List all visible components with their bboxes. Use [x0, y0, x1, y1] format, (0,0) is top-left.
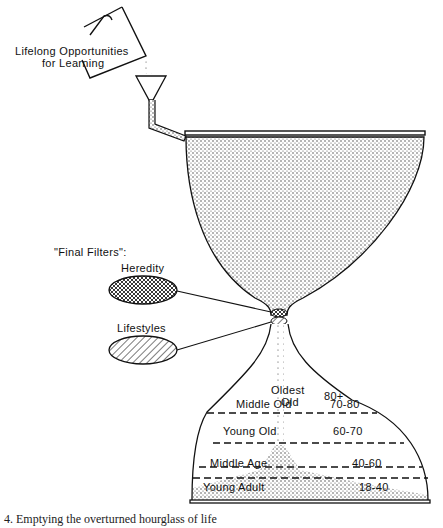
stage-young-adult: Young Adult — [203, 481, 265, 493]
lifestyles-filter-oval — [109, 336, 177, 364]
stage-young-old-ages: 60-70 — [333, 425, 363, 437]
source-label-line1: Lifelong Opportunities — [15, 45, 129, 57]
hourglass-diagram — [0, 0, 443, 528]
filters-title: "Final Filters": — [54, 246, 127, 258]
stage-young-old: Young Old — [223, 425, 277, 437]
figure-caption: 4. Emptying the overturned hourglass of … — [4, 512, 217, 527]
stage-young-adult-ages: 18-40 — [359, 481, 389, 493]
stage-middle-age-ages: 40-60 — [352, 457, 382, 469]
hourglass-top-bulb — [185, 131, 425, 315]
stage-middle-old: Middle Old — [236, 398, 292, 410]
heredity-filter-oval — [109, 276, 177, 304]
filter-label-lifestyles: Lifestyles — [117, 322, 166, 334]
stage-oldest-old-line1: Oldest — [271, 384, 305, 396]
filter-label-heredity: Heredity — [121, 262, 164, 274]
stage-middle-age: Middle Age — [210, 457, 267, 469]
source-label-line2: for Learning — [42, 57, 104, 69]
stage-middle-old-ages: 70-80 — [330, 398, 360, 410]
funnel-icon — [136, 76, 186, 141]
neck-filters — [271, 309, 287, 325]
hourglass-bottom-bulb — [190, 324, 430, 503]
